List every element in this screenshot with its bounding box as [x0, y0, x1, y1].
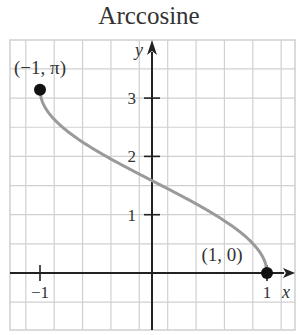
x-axis-label: x: [281, 282, 290, 302]
y-axis-label: y: [133, 40, 143, 60]
point-marker: [261, 267, 273, 279]
point-label: (1, 0): [201, 244, 242, 266]
arccos-chart: −11123 (−1, π)(1, 0) x y: [0, 0, 298, 335]
y-tick-label: 1: [128, 206, 137, 225]
point-marker: [34, 84, 46, 96]
y-tick-label: 2: [128, 147, 137, 166]
x-tick-label: −1: [31, 283, 49, 302]
point-label: (−1, π): [14, 57, 66, 79]
x-tick-label: 1: [263, 283, 272, 302]
y-tick-label: 3: [128, 89, 137, 108]
